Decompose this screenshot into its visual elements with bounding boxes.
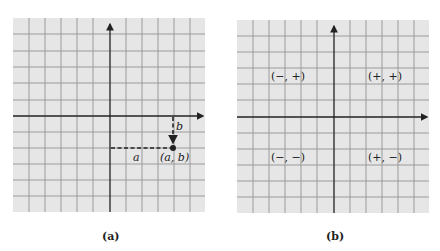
- panel-a: b a (a, b) (a): [13, 18, 205, 243]
- quadrant-2-label: (−, +): [271, 70, 305, 83]
- label-a: a: [133, 151, 140, 164]
- quadrant-1-label: (+, +): [368, 70, 402, 83]
- caption-a: (a): [102, 230, 120, 243]
- coordinate-figure: b a (a, b) (a) (−, +) (+, +) (−, −) (+, …: [0, 0, 440, 251]
- label-point: (a, b): [160, 151, 189, 164]
- quadrant-4-label: (+, −): [368, 151, 402, 164]
- panel-b: (−, +) (+, +) (−, −) (+, −) (b): [237, 20, 429, 243]
- caption-b: (b): [326, 230, 344, 243]
- grid-background: [13, 18, 205, 212]
- quadrant-3-label: (−, −): [271, 151, 305, 164]
- label-b: b: [176, 120, 183, 133]
